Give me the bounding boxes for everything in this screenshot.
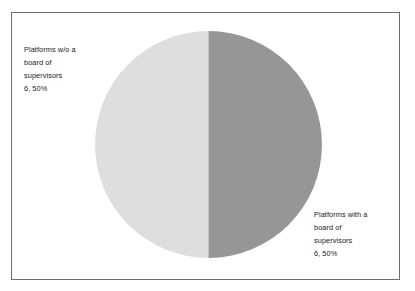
pie-chart (95, 31, 322, 258)
pie-label-platforms-without-board: Platforms w/o a board of supervisors 6, … (24, 44, 76, 96)
pie-label-right-line-1: Platforms with a (314, 209, 367, 222)
pie-label-left-line-2: board of (24, 57, 76, 70)
pie-slice-platforms-without-board[interactable] (95, 31, 208, 258)
pie-chart-svg (95, 31, 322, 258)
pie-label-left-line-3: supervisors (24, 70, 76, 83)
pie-label-right-line-3: supervisors (314, 235, 367, 248)
pie-label-left-line-1: Platforms w/o a (24, 44, 76, 57)
pie-label-left-value: 6, 50% (24, 83, 76, 96)
pie-label-platforms-with-board: Platforms with a board of supervisors 6,… (314, 209, 367, 261)
pie-slice-platforms-with-board[interactable] (209, 31, 322, 258)
pie-label-right-value: 6, 50% (314, 248, 367, 261)
chart-frame: Platforms w/o a board of supervisors 6, … (11, 12, 400, 280)
pie-label-right-line-2: board of (314, 222, 367, 235)
